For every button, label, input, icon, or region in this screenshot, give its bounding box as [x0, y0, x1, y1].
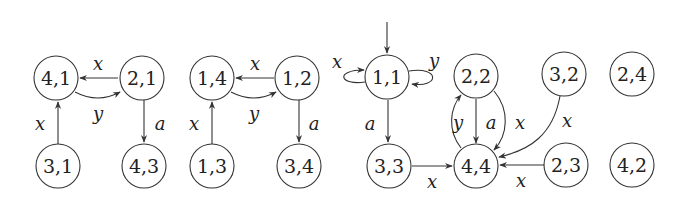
- state-node: 1,2: [275, 56, 319, 100]
- edge-label-y: y: [428, 50, 440, 71]
- svg-text:3,1: 3,1: [43, 155, 73, 177]
- svg-text:1,3: 1,3: [197, 155, 227, 177]
- edge-label-a: a: [155, 113, 166, 134]
- edge-label-x: x: [515, 112, 525, 133]
- svg-text:1,4: 1,4: [197, 67, 227, 89]
- svg-text:3,4: 3,4: [284, 155, 314, 177]
- edge-label-x: x: [516, 170, 526, 191]
- state-node: 3,3: [367, 144, 411, 188]
- edge-label-a: a: [486, 112, 497, 133]
- svg-text:3,3: 3,3: [374, 155, 404, 177]
- edge-label-a: a: [309, 113, 320, 134]
- state-node: 4,3: [122, 144, 166, 188]
- svg-text:4,4: 4,4: [461, 155, 491, 177]
- svg-text:4,3: 4,3: [129, 155, 159, 177]
- edge-label-x: x: [250, 53, 260, 74]
- svg-text:2,2: 2,2: [461, 65, 491, 87]
- edge-label-y: y: [248, 103, 260, 124]
- edge-label-x: x: [35, 113, 45, 134]
- state-node: 3,1: [36, 144, 80, 188]
- svg-text:2,1: 2,1: [127, 67, 157, 89]
- state-diagram: x y x a x y x a x y a x y: [0, 0, 685, 206]
- edge-label-y: y: [452, 112, 464, 133]
- edge-label-x: x: [93, 53, 103, 74]
- initial-state-node: 1,1: [365, 55, 409, 99]
- state-node: 3,2: [542, 52, 586, 96]
- svg-text:1,1: 1,1: [372, 66, 402, 88]
- edge-32-to-44: [499, 96, 560, 157]
- self-loop-11-y: [409, 70, 433, 84]
- edge-label-x: x: [332, 51, 342, 72]
- edge-label-x: x: [427, 171, 437, 192]
- edge-label-y: y: [92, 103, 104, 124]
- state-node: 4,1: [34, 56, 78, 100]
- svg-text:4,2: 4,2: [617, 154, 647, 176]
- edge-label-x: x: [189, 113, 199, 134]
- edge-label-a: a: [365, 113, 376, 134]
- edge-label-x: x: [562, 110, 572, 131]
- svg-text:1,2: 1,2: [282, 67, 312, 89]
- self-loop-11-x: [344, 70, 365, 83]
- svg-text:4,1: 4,1: [41, 67, 71, 89]
- svg-text:2,4: 2,4: [617, 63, 647, 85]
- svg-text:3,2: 3,2: [549, 63, 579, 85]
- state-node: 1,4: [190, 56, 234, 100]
- state-node: 2,2: [454, 54, 498, 98]
- state-node: 2,1: [120, 56, 164, 100]
- state-node: 3,4: [277, 144, 321, 188]
- state-node: 2,4: [610, 52, 654, 96]
- state-node: 2,3: [544, 143, 588, 187]
- edge-41-to-21: [75, 92, 120, 98]
- svg-text:2,3: 2,3: [551, 154, 581, 176]
- state-node: 4,4: [454, 144, 498, 188]
- edge-14-to-12: [231, 92, 276, 98]
- state-node: 1,3: [190, 144, 234, 188]
- state-node: 4,2: [610, 143, 654, 187]
